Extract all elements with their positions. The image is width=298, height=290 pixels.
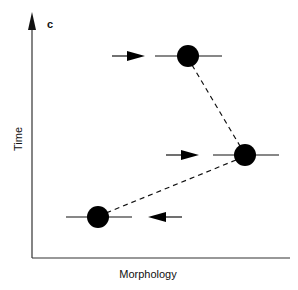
connector-middle-bottom [106,160,236,213]
data-point-top [112,45,222,67]
point-marker [177,45,199,67]
diagram-canvas [0,0,298,290]
connector-top-middle [192,65,240,146]
data-point-middle [166,144,279,166]
y-axis-label: Time [12,119,24,159]
panel-label: c [47,18,53,30]
arrow-right-icon [181,150,199,160]
point-marker [234,144,256,166]
arrow-right-icon [127,51,145,61]
x-axis-label: Morphology [98,268,198,280]
arrow-left-icon [148,212,166,222]
y-axis-arrow-icon [28,12,36,30]
point-marker [87,206,109,228]
data-point-bottom [66,206,182,228]
